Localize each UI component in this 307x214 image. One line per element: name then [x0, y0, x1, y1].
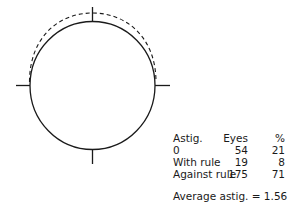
row-pct: 8 — [255, 156, 285, 168]
row-eyes: 54 — [208, 144, 248, 156]
cornea-circle — [30, 22, 155, 150]
row-eyes: 19 — [208, 156, 248, 168]
astigmatism-diagram — [0, 0, 307, 214]
average-astig: Average astig. = 1.56 — [173, 190, 287, 202]
row-pct: 21 — [255, 144, 285, 156]
header-pct: % — [255, 132, 285, 144]
header-eyes: Eyes — [208, 132, 248, 144]
dashed-astigmatism-arc — [30, 13, 157, 82]
header-astig: Astig. — [173, 132, 203, 144]
row-eyes: 175 — [208, 168, 248, 180]
row-label: 0 — [173, 144, 180, 156]
row-pct: 71 — [255, 168, 285, 180]
